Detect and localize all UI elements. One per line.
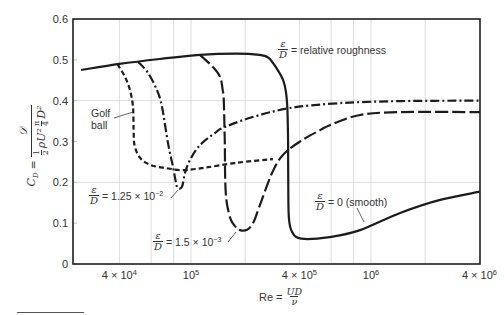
- rho-u-squared: ρU²: [35, 128, 48, 148]
- annotation-text: = relative roughness: [291, 44, 386, 56]
- y-axis-label: CD = 𝒟 12 ρU² π4 D²: [11, 91, 55, 201]
- annotation-rough-1-5e-3: ε D = 1.5 × 10−3: [153, 231, 221, 252]
- x-tick-label: 105: [183, 270, 199, 281]
- annotation-value: = 1.25 × 10: [102, 190, 155, 202]
- rough-1-5e-3-leader-line: [228, 232, 236, 242]
- x-label-fraction: UD ν: [286, 287, 304, 306]
- annotation-rough-1-25e-2: ε D = 1.25 × 10−2: [89, 185, 163, 206]
- y-label-cd: CD: [25, 172, 40, 186]
- annotation-relative-roughness: ε D = relative roughness: [278, 39, 386, 60]
- x-tick-label: 4 × 106: [462, 270, 497, 281]
- y-label-sub: D: [33, 172, 41, 178]
- frac-den: D: [315, 201, 325, 212]
- annotation-exponent: −2: [155, 190, 163, 197]
- annotation-exponent: −3: [213, 236, 221, 243]
- frac-den: D: [89, 195, 99, 206]
- epsilon-over-d: ε D: [153, 231, 163, 252]
- rough-1-25e-2-leader-line: [171, 190, 178, 198]
- y-tick-label: 0.6: [53, 14, 68, 25]
- annotation-leaders: [114, 112, 364, 242]
- y-label-denominator: 12 ρU² π4 D²: [31, 106, 50, 158]
- y-label-equals: =: [27, 160, 40, 169]
- series-layer: [81, 54, 480, 239]
- x-tick-label: 106: [363, 270, 379, 281]
- frac-num: ε: [90, 185, 97, 195]
- footnote-rule: [17, 312, 84, 313]
- x-tick-label: 4 × 105: [282, 270, 317, 281]
- frac-den: D: [278, 49, 288, 60]
- half-den: 2: [41, 150, 50, 155]
- x-label-re: Re =: [259, 291, 283, 303]
- epsilon-over-d: ε D: [278, 39, 288, 60]
- drag-coefficient-chart: [0, 0, 504, 315]
- x-label-numerator: UD: [286, 287, 304, 296]
- annotation-text: = 1.5 × 10−3: [166, 236, 221, 248]
- annotation-value: = 1.5 × 10: [166, 236, 213, 248]
- frac-num: ε: [154, 231, 161, 241]
- y-tick-label: 0.1: [53, 218, 68, 229]
- x-label-denominator: ν: [290, 296, 298, 306]
- pi-num: π: [33, 121, 41, 126]
- annotation-golf-ball: Golf ball: [91, 107, 110, 131]
- epsilon-over-d: ε D: [89, 185, 99, 206]
- y-tick-label: 0.5: [53, 54, 68, 65]
- golf-label-line1: Golf: [91, 107, 110, 119]
- y-label-c: C: [25, 178, 38, 186]
- x-axis-label: Re = UD ν: [259, 287, 306, 306]
- pi-den: 4: [41, 121, 50, 126]
- half-fraction: 12: [33, 150, 50, 155]
- annotation-smooth: ε D = 0 (smooth): [315, 191, 387, 212]
- series-smooth: [81, 54, 480, 239]
- y-label-numerator: 𝒟: [17, 127, 31, 136]
- frac-num: ε: [279, 39, 286, 49]
- frac-den: D: [153, 241, 163, 252]
- golf-ball-leader-line: [114, 112, 133, 118]
- annotation-text: = 1.25 × 10−2: [102, 190, 163, 202]
- x-tick-label: 4 × 104: [102, 270, 137, 281]
- frac-num: ε: [316, 191, 323, 201]
- y-label-fraction: 𝒟 12 ρU² π4 D²: [17, 106, 50, 158]
- annotation-text: = 0 (smooth): [328, 196, 387, 208]
- half-num: 1: [33, 150, 41, 155]
- pi-over-4-fraction: π4: [33, 121, 50, 126]
- d-squared: D²: [35, 106, 48, 119]
- golf-label-line2: ball: [91, 119, 110, 131]
- series-rough-1-25e-2: [138, 62, 480, 189]
- y-tick-label: 0: [62, 259, 68, 270]
- epsilon-over-d: ε D: [315, 191, 325, 212]
